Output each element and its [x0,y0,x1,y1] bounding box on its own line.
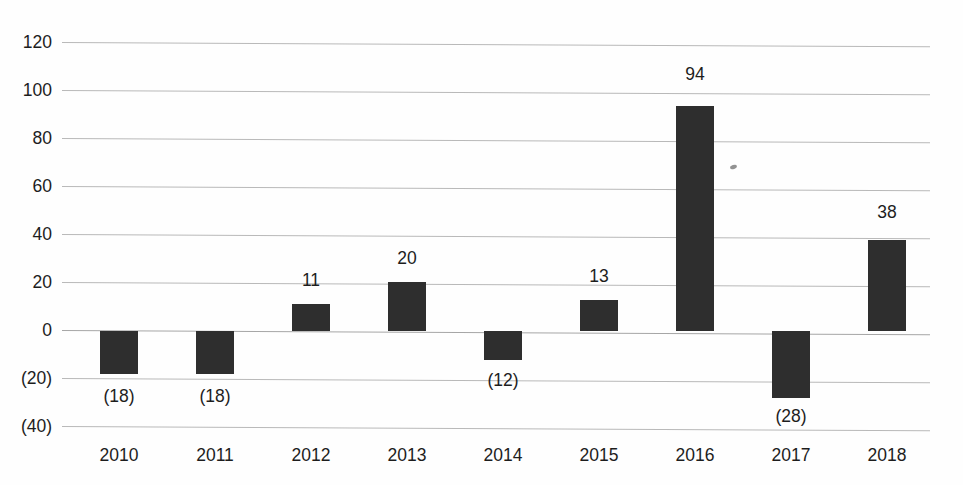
bar-chart: 120 100 80 60 40 20 0 (20) (40) (18) [0,0,963,485]
scan-artifact-speck [730,164,738,170]
data-label-2015: 13 [565,268,633,286]
x-tick-2012: 2012 [277,447,345,465]
bar-2018[interactable] [868,240,906,331]
data-label-2012: 11 [277,272,345,290]
gridline-60 [62,186,930,191]
gridline-120 [62,42,930,47]
gridline-neg40 [62,426,930,431]
bar-2011[interactable] [196,331,234,374]
data-label-2016: 94 [661,66,729,84]
y-tick-label: (20) [0,370,52,388]
x-tick-2017: 2017 [757,447,825,465]
y-tick-label: 20 [0,274,52,292]
data-label-2010: (18) [85,388,153,406]
x-tick-2010: 2010 [85,447,153,465]
y-tick-label: 40 [0,226,52,244]
data-label-2014: (12) [469,372,537,390]
data-label-2018: 38 [853,204,921,222]
gridline-40 [62,234,930,239]
y-tick-label: 120 [0,34,52,52]
bar-2017[interactable] [772,331,810,398]
gridline-100 [62,90,930,95]
bar-2015[interactable] [580,300,618,331]
bar-2014[interactable] [484,331,522,360]
y-tick-label: 0 [0,322,52,340]
plot-area: (18) (18) 11 20 (12) 13 94 (28) 38 2010 … [62,0,930,485]
x-tick-2016: 2016 [661,447,729,465]
y-tick-label: 60 [0,178,52,196]
x-tick-2011: 2011 [181,447,249,465]
data-label-2013: 20 [373,250,441,268]
y-tick-label: (40) [0,418,52,436]
x-tick-2015: 2015 [565,447,633,465]
x-tick-2014: 2014 [469,447,537,465]
bar-2016[interactable] [676,106,714,331]
gridline-80 [62,138,930,143]
data-label-2017: (28) [757,408,825,426]
data-label-2011: (18) [181,388,249,406]
x-tick-2013: 2013 [373,447,441,465]
bar-2012[interactable] [292,304,330,331]
bar-2013[interactable] [388,282,426,331]
x-tick-2018: 2018 [853,447,921,465]
y-tick-label: 80 [0,130,52,148]
gridline-20 [62,282,930,287]
y-tick-label: 100 [0,82,52,100]
bar-2010[interactable] [100,331,138,374]
